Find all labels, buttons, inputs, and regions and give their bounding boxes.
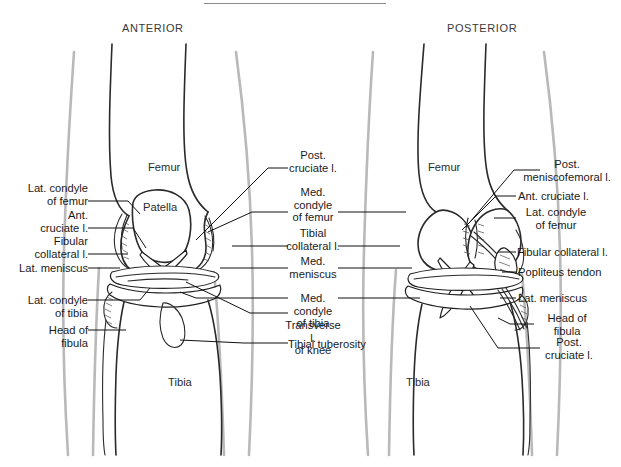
label-lat-condyle-of-femur-posterior: Lat. condyle of femur bbox=[520, 206, 592, 231]
bone-label-tibia-anterior: Tibia bbox=[168, 376, 192, 388]
title-underline-rule bbox=[204, 3, 386, 4]
label-fibular-collateral-l-anterior: Fibular collateral l. bbox=[8, 235, 88, 260]
label-ant-cruciate-l-posterior: Ant. cruciate l. bbox=[518, 190, 618, 203]
label-lat-condyle-of-femur-anterior: Lat. condyle of femur bbox=[8, 182, 88, 207]
view-heading-anterior: ANTERIOR bbox=[122, 22, 184, 34]
label-fibular-collateral-l-posterior: Fibular collateral l. bbox=[517, 246, 621, 259]
bone-label-femur-posterior: Femur bbox=[428, 161, 460, 173]
label-lat-meniscus-anterior: Lat. meniscus bbox=[2, 262, 88, 275]
label-post-cruciate-l-center: Post. cruciate l. bbox=[288, 149, 338, 174]
bone-label-tibia-posterior: Tibia bbox=[406, 376, 430, 388]
view-heading-posterior: POSTERIOR bbox=[447, 22, 517, 34]
label-post-meniscofemoral-l-posterior: Post. meniscofemoral l. bbox=[516, 158, 618, 183]
label-post-cruciate-l-posterior: Post. cruciate l. bbox=[542, 336, 596, 361]
label-popliteus-tendon-posterior: Popliteus tendon bbox=[518, 266, 618, 279]
knee-anatomy-figure: ANTERIOR POSTERIOR bbox=[0, 0, 621, 467]
label-head-of-fibula-posterior: Head of fibula bbox=[538, 312, 596, 337]
label-tibial-tuberosity-center: Tibial tuberosity bbox=[288, 338, 372, 351]
label-lat-meniscus-posterior: Lat. meniscus bbox=[518, 292, 618, 305]
anterior-view-drawing bbox=[63, 44, 253, 455]
label-med-meniscus-center: Med. meniscus bbox=[288, 255, 338, 280]
label-head-of-fibula-anterior: Head of fibula bbox=[8, 324, 88, 349]
bone-label-patella: Patella bbox=[143, 201, 177, 213]
label-tibial-collateral-l-center: Tibial collateral l. bbox=[286, 227, 340, 252]
label-med-condyle-of-femur-center: Med. condyle of femur bbox=[288, 186, 338, 224]
label-lat-condyle-of-tibia-anterior: Lat. condyle of tibia bbox=[6, 294, 88, 319]
bone-label-femur-anterior: Femur bbox=[148, 161, 180, 173]
label-ant-cruciate-l-anterior: Ant. cruciate l. bbox=[8, 209, 88, 234]
